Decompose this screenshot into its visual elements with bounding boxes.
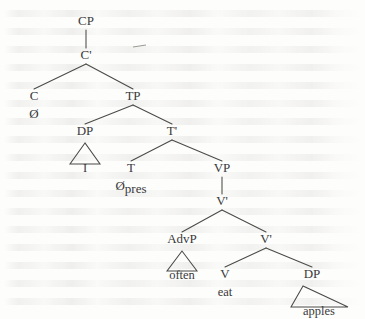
node-vp: VP <box>214 160 231 175</box>
leaf-eat: eat <box>218 285 233 299</box>
branch-cbar-to-tp <box>86 64 133 89</box>
branch-vbar-to-vbar <box>222 210 266 232</box>
node-advp: AdvP <box>167 231 197 246</box>
node-tbar: T' <box>167 123 177 138</box>
node-tp: TP <box>125 88 140 103</box>
branch-vbar2-to-dp <box>266 248 312 267</box>
node-t-head: Øpres <box>115 178 146 196</box>
branch-cbar-to-c <box>34 64 86 89</box>
branch-vbar-to-advp <box>182 210 222 232</box>
leaf-i: I <box>83 161 87 175</box>
leaf-often: often <box>169 268 195 282</box>
node-c-head: Ø <box>29 106 38 121</box>
node-dp-object: DP <box>304 266 321 281</box>
node-v: V <box>220 266 230 281</box>
node-cp: CP <box>78 13 94 28</box>
branch-tbar-to-vp <box>172 140 222 161</box>
tree-triangles <box>70 143 348 307</box>
node-vbar-upper: V' <box>216 193 228 208</box>
stray-dash-artifact <box>133 45 146 47</box>
node-t: T <box>127 160 135 175</box>
syntax-tree-figure: CP C' C Ø TP DP I T' T Øpres VP V' AdvP … <box>0 0 365 319</box>
node-cbar: C' <box>80 47 91 62</box>
branch-tp-to-tbar <box>133 105 172 124</box>
node-vbar-lower: V' <box>260 231 272 246</box>
node-c: C <box>30 88 39 103</box>
node-t-head-subscript: pres <box>125 181 147 196</box>
leaf-apples: apples <box>303 304 335 318</box>
node-dp-subject: DP <box>77 123 94 138</box>
branch-tbar-to-t <box>131 140 172 161</box>
branch-tp-to-dp <box>85 105 133 124</box>
syntax-tree-canvas: CP C' C Ø TP DP I T' T Øpres VP V' AdvP … <box>0 0 365 319</box>
branch-vbar2-to-v <box>225 248 266 267</box>
node-t-head-symbol: Ø <box>115 178 124 193</box>
